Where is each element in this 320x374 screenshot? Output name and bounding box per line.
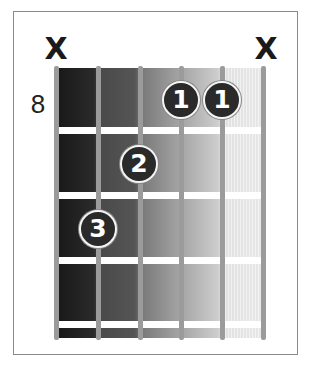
finger-dot-string-3-fret-2: 2 <box>120 145 158 183</box>
finger-dot-string-2-fret-3: 3 <box>79 210 117 248</box>
string-6 <box>261 66 266 340</box>
mute-marker-string-6: X <box>251 34 281 64</box>
string-1 <box>54 66 59 340</box>
fret-line-4 <box>56 321 263 328</box>
string-3 <box>138 66 143 340</box>
starting-fret-label: 8 <box>26 90 50 118</box>
finger-dot-string-5-fret-1: 1 <box>203 81 241 119</box>
fret-line-1 <box>56 127 263 134</box>
fret-line-2 <box>56 192 263 199</box>
fret-line-3 <box>56 257 263 264</box>
string-2 <box>96 66 101 340</box>
finger-dot-string-4-fret-1: 1 <box>162 81 200 119</box>
mute-marker-string-1: X <box>41 34 71 64</box>
